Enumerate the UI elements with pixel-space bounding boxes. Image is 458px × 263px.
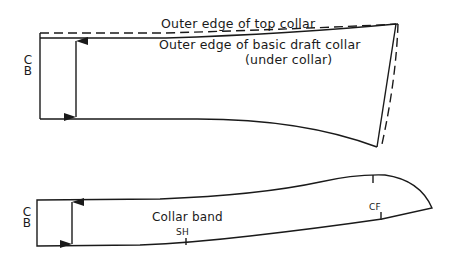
band-center-back-label: C B <box>21 207 33 229</box>
top-collar-side-edge-dashed <box>382 24 398 144</box>
under-collar-label: (under collar) <box>245 54 332 67</box>
cb-letter-b: B <box>22 66 34 77</box>
cb-letter-b: B <box>21 218 33 229</box>
center-front-mark-label: CF <box>369 203 381 212</box>
collar-neckline-edge <box>40 119 377 147</box>
collar-center-back-label: C B <box>22 55 34 77</box>
diagram-canvas: C B Outer edge of top collar Outer edge … <box>0 0 458 263</box>
top-collar-edge-label: Outer edge of top collar <box>161 18 315 31</box>
shoulder-mark-label: SH <box>176 228 189 237</box>
basic-draft-edge-label: Outer edge of basic draft collar <box>159 39 361 52</box>
collar-band-title: Collar band <box>152 211 223 223</box>
